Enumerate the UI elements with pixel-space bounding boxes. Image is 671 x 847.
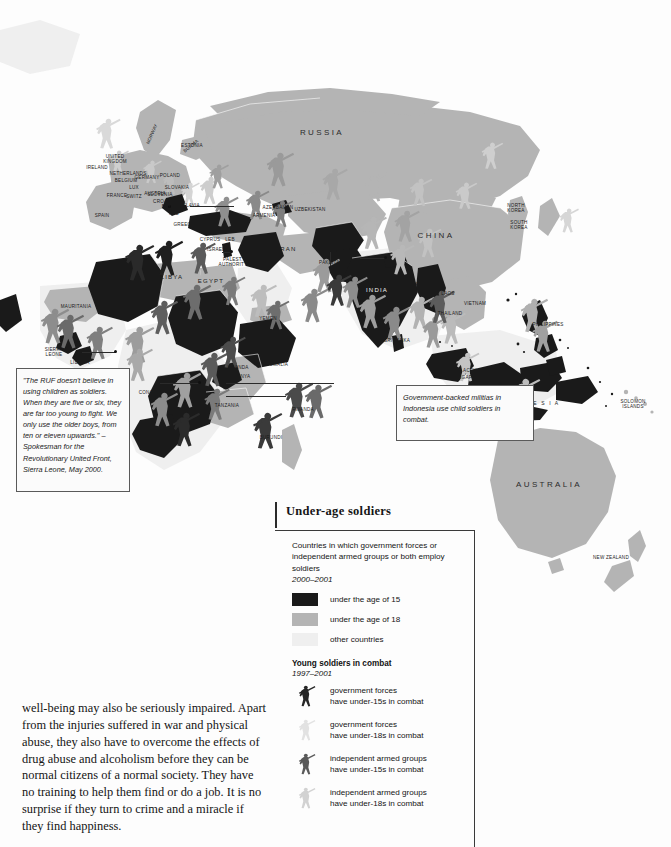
legend-figure-label: government forceshave under-15s in comba… — [330, 686, 424, 708]
legend-figure-label-line1: government forces — [330, 720, 397, 729]
legend-figure-label-line2: have under-15s in combat — [330, 765, 424, 774]
legend-swatch-list: under the age of 15under the age of 18ot… — [292, 593, 472, 646]
legend-figure-label-line2: have under-15s in combat — [330, 697, 424, 706]
legend-subtitle: Young soldiers in combat — [292, 659, 472, 668]
legend-swatch-box — [292, 613, 318, 626]
map-page: RUSSIACHINAINDIAAUSTRALIAI N D O N E S I… — [0, 0, 671, 847]
legend-figure-label: independent armed groupshave under-18s i… — [330, 788, 427, 810]
legend-figure-label-line1: independent armed groups — [330, 788, 427, 797]
leader-line-sierraleone — [82, 352, 116, 353]
child-soldier-icon — [292, 682, 322, 712]
leader-dot-congo — [198, 381, 201, 384]
leader-dot-nepal — [384, 256, 387, 259]
legend-title-wrap: Under-age soldiers — [275, 500, 475, 530]
legend-description-years: 2000–2001 — [292, 575, 333, 584]
legend-swatch-label: under the age of 18 — [330, 615, 400, 624]
legend-swatch-box — [292, 593, 318, 606]
leader-line-burundi — [226, 396, 286, 397]
legend-figure-label-line1: independent armed groups — [330, 754, 427, 763]
legend-figure-label-line1: government forces — [330, 686, 397, 695]
legend-description: Countries in which government forces or … — [292, 540, 472, 586]
legend-figure-row: independent armed groupshave under-18s i… — [292, 784, 472, 814]
child-soldier-icon — [292, 750, 322, 780]
legend-figure-label-line2: have under-18s in combat — [330, 799, 424, 808]
legend-side-rule — [474, 530, 475, 847]
legend-swatch-label: under the age of 15 — [330, 595, 400, 604]
legend-swatch-row: other countries — [292, 633, 472, 646]
leader-line-rwanda — [226, 383, 334, 384]
leader-dot-sierraleone — [114, 350, 117, 353]
legend-figure-row: government forceshave under-15s in comba… — [292, 682, 472, 712]
legend-description-text: Countries in which government forces or … — [292, 541, 445, 573]
legend-title: Under-age soldiers — [286, 504, 391, 519]
legend-figure-label-line2: have under-18s in combat — [330, 731, 424, 740]
legend-figure-label: government forceshave under-18s in comba… — [330, 720, 424, 742]
legend-title-accent-bar — [275, 502, 277, 528]
legend-swatch-row: under the age of 18 — [292, 613, 472, 626]
legend-panel: Under-age soldiers Countries in which go… — [275, 500, 475, 847]
legend-figure-label: independent armed groupshave under-15s i… — [330, 754, 427, 776]
legend-figure-list: government forceshave under-15s in comba… — [292, 682, 472, 814]
callout-indonesia: Government-backed militias in Indonesia … — [396, 385, 534, 441]
child-soldier-icon — [292, 784, 322, 814]
leader-line-israel — [190, 206, 234, 207]
legend-swatch-row: under the age of 15 — [292, 593, 472, 606]
legend-swatch-label: other countries — [330, 635, 384, 644]
leader-line-congo — [160, 383, 200, 384]
leader-line-nepal — [360, 258, 386, 259]
legend-figure-row: independent armed groupshave under-15s i… — [292, 750, 472, 780]
legend-title-rule — [275, 530, 475, 531]
legend-swatch-box — [292, 633, 318, 646]
legend-subtitle-years: 1997–2001 — [292, 669, 472, 678]
leader-line-pakistan — [330, 252, 331, 266]
leader-dot-israel — [168, 205, 171, 208]
leader-dot-palestine — [230, 250, 233, 253]
legend-body: Countries in which government forces or … — [292, 540, 472, 814]
body-paragraph: well-being may also be seriously impaire… — [22, 700, 267, 835]
callout-sierra-leone-quote: "The RUF doesn't believe in using childr… — [16, 368, 130, 492]
legend-figure-row: government forceshave under-18s in comba… — [292, 716, 472, 746]
child-soldier-icon — [292, 716, 322, 746]
